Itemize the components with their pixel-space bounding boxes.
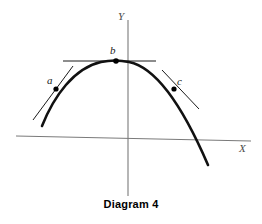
point-label-a: a (47, 75, 53, 86)
diagram-canvas (0, 0, 262, 224)
x-axis-label: X (239, 143, 246, 154)
point-label-b: b (110, 45, 116, 56)
point-label-c: c (177, 76, 182, 87)
figure-caption: Diagram 4 (0, 198, 262, 210)
x-axis-line (16, 136, 251, 141)
diagram-figure: Y X a b c Diagram 4 (0, 0, 262, 224)
point-marker-a (53, 86, 58, 91)
point-marker-b (113, 58, 119, 64)
parabola-curve (42, 61, 208, 166)
y-axis-label: Y (118, 11, 124, 22)
point-marker-c (171, 86, 176, 91)
tangent-line-a (33, 66, 73, 120)
